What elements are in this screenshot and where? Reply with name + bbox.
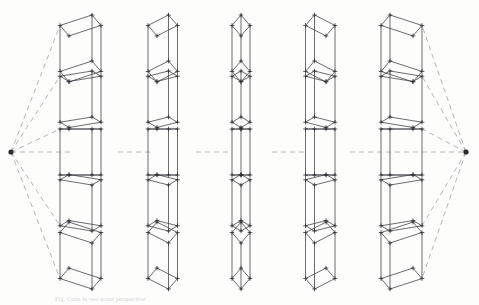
cube-vertex-rB bbox=[99, 223, 104, 228]
cube-vertex-rT bbox=[333, 127, 338, 132]
cube-edge-3 bbox=[148, 233, 169, 243]
cube-vertex-lB bbox=[58, 223, 63, 228]
cube-vertex-bT bbox=[155, 172, 160, 177]
cube-edge-9 bbox=[381, 122, 413, 127]
cube-edge-5 bbox=[381, 117, 390, 122]
cube-edge-10 bbox=[157, 268, 178, 278]
cube-edge-10 bbox=[69, 122, 101, 127]
cube-vertex-lT bbox=[58, 127, 63, 132]
cube-edge-3 bbox=[148, 71, 169, 76]
cube-vertex-fB bbox=[166, 115, 171, 120]
cube-edge-10 bbox=[157, 122, 178, 127]
cube-vertex-lT bbox=[230, 177, 235, 182]
cube-vertex-lT bbox=[379, 127, 384, 132]
cube-vertex-rB bbox=[248, 173, 253, 178]
cube-edge-5 bbox=[148, 117, 169, 122]
cube-vertex-fT bbox=[90, 69, 95, 74]
cube-vertex-fB bbox=[239, 115, 244, 120]
cube-vertex-lT bbox=[58, 74, 63, 79]
construction-ray-left-0 bbox=[11, 25, 60, 152]
left-vanishing-point[interactable] bbox=[8, 149, 13, 154]
cube-edge-9 bbox=[60, 122, 69, 127]
cube-edge-7 bbox=[306, 25, 327, 35]
cube-edge-9 bbox=[148, 122, 157, 127]
cube-vertex-lT bbox=[303, 127, 308, 132]
cube-edge-8 bbox=[241, 25, 250, 35]
cube-edge-3 bbox=[60, 15, 92, 25]
cube-vertex-fT bbox=[166, 183, 171, 188]
cube-vertex-rT bbox=[175, 74, 180, 79]
cube-vertex-fT bbox=[388, 127, 393, 132]
right-vanishing-point-dot[interactable] bbox=[463, 149, 468, 154]
cube-vertex-rB bbox=[248, 120, 253, 125]
cube-vertex-lT bbox=[379, 177, 384, 182]
cube-edge-4 bbox=[315, 15, 336, 25]
left-vanishing-point-dot[interactable] bbox=[8, 149, 13, 154]
cube-edge-6 bbox=[315, 117, 336, 122]
cube-vertex-bT bbox=[324, 172, 329, 177]
cube-edge-6 bbox=[315, 279, 336, 289]
cube-edge-4 bbox=[241, 233, 250, 243]
cube-edge-9 bbox=[381, 268, 413, 278]
cube-vertex-rB bbox=[175, 223, 180, 228]
cube-edge-6 bbox=[169, 117, 178, 122]
cube-edge-10 bbox=[69, 268, 101, 278]
figure-caption: Fig. Cube in two-point perspective bbox=[55, 296, 145, 302]
cube-vertex-fB bbox=[388, 115, 393, 120]
cube-edge-4 bbox=[169, 15, 178, 25]
cube-vertex-rT bbox=[248, 177, 253, 182]
cube-cell-r1-c3 bbox=[303, 69, 337, 130]
cube-edge-5 bbox=[306, 61, 315, 71]
cube-vertex-rB bbox=[248, 223, 253, 228]
cube-vertex-fT bbox=[239, 69, 244, 74]
cube-vertex-rT bbox=[99, 127, 104, 132]
cube-edge-6 bbox=[169, 279, 178, 289]
cube-vertex-rB bbox=[175, 173, 180, 178]
cube-vertex-fT bbox=[312, 183, 317, 188]
cube-edge-3 bbox=[306, 15, 315, 25]
cube-cell-r3-c4 bbox=[379, 172, 425, 233]
cube-edge-4 bbox=[241, 180, 250, 185]
cube-cell-r4-c4 bbox=[379, 220, 425, 291]
cube-edge-6 bbox=[92, 117, 101, 122]
cube-edge-3 bbox=[381, 15, 390, 25]
cube-vertex-lT bbox=[58, 177, 63, 182]
cube-vertex-rB bbox=[333, 120, 338, 125]
cube-vertex-bT bbox=[239, 172, 244, 177]
cube-edge-4 bbox=[169, 233, 178, 243]
construction-ray-right-0 bbox=[422, 25, 466, 152]
cube-edge-7 bbox=[148, 25, 157, 35]
cube-vertex-rT bbox=[333, 177, 338, 182]
cube-vertex-lB bbox=[146, 223, 151, 228]
cube-edge-4 bbox=[315, 180, 336, 185]
cube-cell-r3-c0 bbox=[58, 172, 104, 233]
perspective-cube-grid bbox=[0, 0, 479, 305]
cube-edge-3 bbox=[232, 233, 241, 243]
cube-edge-4 bbox=[390, 233, 422, 243]
cube-vertex-lB bbox=[58, 120, 63, 125]
cube-cell-r1-c1 bbox=[146, 69, 180, 130]
cube-vertex-lB bbox=[230, 173, 235, 178]
cube-vertex-rB bbox=[420, 223, 425, 228]
cube-vertex-fT bbox=[90, 127, 95, 132]
cube-vertex-rB bbox=[333, 173, 338, 178]
cube-edge-10 bbox=[241, 122, 250, 127]
cube-edge-8 bbox=[326, 25, 335, 35]
cube-vertex-rT bbox=[175, 177, 180, 182]
cube-edge-5 bbox=[60, 279, 92, 289]
cube-vertex-fT bbox=[312, 69, 317, 74]
cube-vertex-rT bbox=[420, 177, 425, 182]
cube-vertex-lB bbox=[379, 120, 384, 125]
cube-edge-8 bbox=[413, 25, 422, 35]
cube-vertex-rT bbox=[248, 74, 253, 79]
cube-edge-8 bbox=[69, 222, 101, 232]
cube-edge-3 bbox=[232, 15, 241, 25]
cube-edge-8 bbox=[69, 25, 101, 35]
cube-vertex-lB bbox=[303, 223, 308, 228]
cube-edge-5 bbox=[232, 226, 241, 231]
cube-edge-5 bbox=[60, 117, 92, 122]
cube-edge-5 bbox=[232, 117, 241, 122]
right-vanishing-point[interactable] bbox=[463, 149, 468, 154]
cube-vertex-bT bbox=[67, 172, 72, 177]
cube-edge-3 bbox=[381, 233, 390, 243]
